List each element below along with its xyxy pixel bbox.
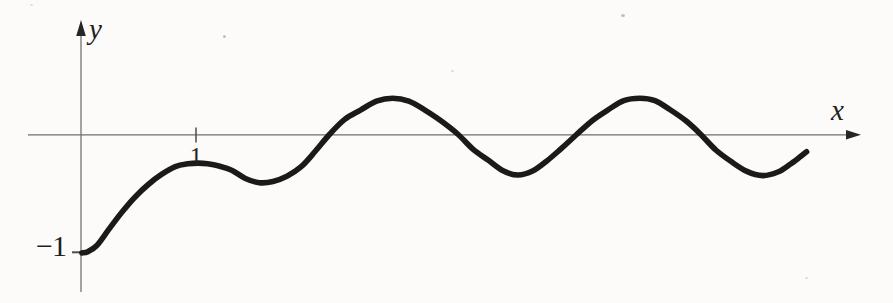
y-axis-arrow-icon [76, 20, 86, 36]
y-axis-label: y [89, 15, 102, 44]
scan-speck [805, 277, 808, 279]
scan-speck [30, 4, 33, 6]
figure-canvas: y x 1 −1 [0, 0, 893, 303]
function-curve [82, 98, 807, 253]
x-axis-label: x [831, 96, 844, 125]
plot-svg [0, 0, 893, 303]
scan-speck [621, 14, 625, 17]
x-axis-arrow-icon [846, 130, 861, 140]
scan-speck [223, 35, 226, 38]
x-tick-label-1: 1 [185, 144, 207, 169]
y-tick-label-neg1: −1 [28, 231, 66, 261]
scan-speck [451, 70, 454, 72]
